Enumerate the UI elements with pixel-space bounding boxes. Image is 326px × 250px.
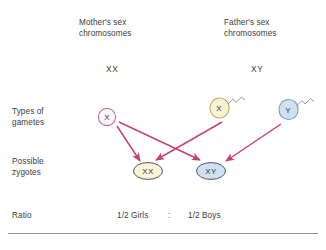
gamete-egg-x: X (98, 108, 115, 125)
bottom-divider (8, 233, 318, 234)
gamete-sperm-x: X (210, 97, 245, 118)
gamete-sperm-x-label: X (216, 104, 222, 113)
zygote-xy-label: XY (205, 167, 217, 176)
gamete-sperm-y: Y (279, 99, 314, 120)
gamete-egg-x-label: X (104, 113, 110, 122)
cross-arrows (117, 122, 281, 161)
zygote-xx-label: XX (142, 167, 154, 176)
zygote-xx: XX (134, 163, 163, 180)
zygote-xy: XY (197, 163, 226, 180)
sex-determination-diagram: Mother's sex chromosomes Father's sex ch… (0, 0, 326, 250)
cross-artwork: X X Y XX XY (0, 0, 326, 250)
arrow-eggx-to-xx (117, 126, 140, 161)
gamete-sperm-y-label: Y (285, 106, 291, 115)
arrow-spermy-to-xy (226, 124, 281, 161)
